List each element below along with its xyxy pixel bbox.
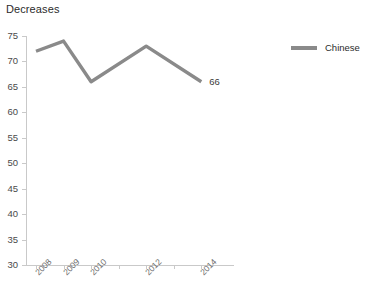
y-tick-label: 65 bbox=[0, 82, 18, 91]
series-line-chinese bbox=[36, 41, 201, 82]
y-tick bbox=[22, 265, 26, 266]
y-tick bbox=[22, 214, 26, 215]
chart-title: Decreases bbox=[6, 3, 59, 15]
legend-label-chinese: Chinese bbox=[325, 42, 360, 53]
x-tick bbox=[174, 265, 175, 269]
y-axis-line bbox=[26, 36, 27, 266]
x-tick-label: 2012 bbox=[143, 257, 163, 277]
legend: Chinese bbox=[291, 42, 360, 53]
y-tick-label: 55 bbox=[0, 133, 18, 142]
y-tick-label: 70 bbox=[0, 56, 18, 65]
y-tick-label: 50 bbox=[0, 158, 18, 167]
chart-container: Decreases 75706560555045403530 200820092… bbox=[0, 0, 376, 305]
x-tick-label: 2010 bbox=[88, 257, 108, 277]
y-tick-label: 35 bbox=[0, 235, 18, 244]
data-point-label: 66 bbox=[209, 76, 220, 87]
y-tick-label: 30 bbox=[0, 260, 18, 269]
y-tick bbox=[22, 240, 26, 241]
y-tick bbox=[22, 112, 26, 113]
y-tick bbox=[22, 87, 26, 88]
y-tick bbox=[22, 163, 26, 164]
y-tick-label: 40 bbox=[0, 209, 18, 218]
legend-swatch-chinese bbox=[291, 46, 317, 50]
y-tick-label: 45 bbox=[0, 184, 18, 193]
y-tick bbox=[22, 61, 26, 62]
y-tick bbox=[22, 36, 26, 37]
y-tick bbox=[22, 138, 26, 139]
x-tick-label: 2009 bbox=[61, 257, 81, 277]
y-tick-label: 60 bbox=[0, 107, 18, 116]
x-tick bbox=[119, 265, 120, 269]
y-tick-label: 75 bbox=[0, 31, 18, 40]
x-tick-label: 2008 bbox=[33, 257, 53, 277]
x-tick-label: 2014 bbox=[198, 257, 218, 277]
y-tick bbox=[22, 189, 26, 190]
